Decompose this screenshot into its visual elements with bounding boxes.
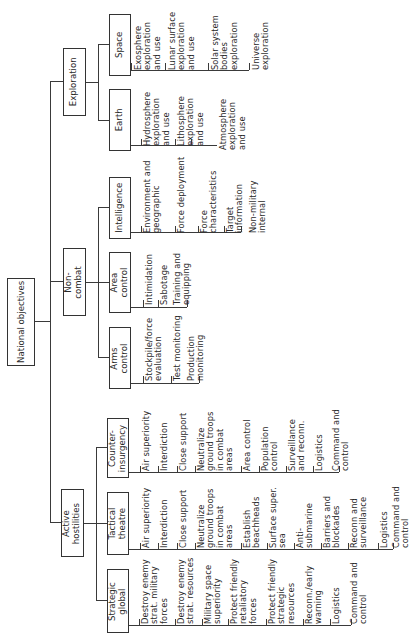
label-intelligence: Intelligence — [115, 177, 125, 239]
leaf-tt-4: Establish beachheads — [243, 497, 262, 548]
leaf-area-control-1: Sabotage — [160, 265, 169, 305]
leaf-ci-5: Population control — [261, 426, 280, 471]
tick — [208, 63, 209, 70]
leaf-tt-8: Reconn and surveillance — [350, 497, 369, 548]
label-non-combat: Non- combat — [64, 249, 83, 317]
leaf-ci-7: Logistics — [315, 434, 324, 471]
box-space: Space — [109, 14, 131, 76]
leaf-ci-0: Air superiority — [142, 411, 151, 471]
connector — [50, 81, 51, 522]
connector — [98, 282, 109, 283]
box-counter-insurgency: Counter- insurgency — [107, 418, 129, 478]
leaf-spine-space — [131, 70, 249, 71]
label-space: Space — [115, 14, 125, 76]
connector — [84, 523, 96, 524]
leaf-arms-control-1: Test monitoring — [173, 315, 182, 381]
leaf-sg-7: Command and control — [350, 562, 369, 624]
national-objectives-tree-diagram: National objectives Exploration Non- com… — [0, 0, 411, 642]
leaf-ci-6: Surveillance and reconn. — [288, 419, 307, 471]
tick — [241, 226, 242, 232]
leaf-ci-3: Neutralize ground troops in combat areas — [197, 411, 235, 471]
leaf-intelligence-1: Force deployment — [177, 157, 186, 233]
connector — [98, 44, 99, 120]
label-exploration: Exploration — [69, 48, 79, 116]
leaf-spine-tactical-theatre — [129, 549, 393, 550]
connector — [98, 357, 109, 358]
leaf-area-control-2: Training and equipping — [173, 253, 192, 305]
label-active-hostilities: Active hostilities — [62, 490, 81, 558]
leaf-area-control-0: Intimidation — [145, 254, 154, 305]
leaf-arms-control-2: Production monitoring — [187, 335, 206, 381]
leaf-spine-counter-insurgency — [129, 472, 339, 473]
connector — [50, 81, 63, 82]
leaf-ci-1: Interdiction — [160, 422, 169, 471]
leaf-tt-2: Close support — [179, 490, 188, 548]
leaf-ci-2: Close support — [179, 413, 188, 471]
box-tactical-theatre: Tactical theatre — [107, 492, 129, 555]
box-exploration: Exploration — [63, 48, 86, 116]
leaf-tt-1: Interdiction — [160, 499, 169, 548]
leaf-space-2: Solar system bodies exploration — [211, 15, 239, 70]
connector — [96, 600, 107, 601]
box-earth: Earth — [109, 89, 131, 151]
box-active-hostilities: Active hostilities — [61, 489, 84, 557]
box-area-control: Area control — [109, 252, 131, 313]
leaf-earth-0: Hydrosphere exploration and use — [143, 92, 171, 146]
leaf-intelligence-0: Environment and geographic — [143, 160, 162, 233]
leaf-tt-9: Logistics — [380, 511, 389, 548]
leaf-sg-5: Reconn./early warning — [305, 566, 324, 624]
leaf-ci-8: Command and control — [332, 409, 351, 471]
leaf-arms-control-0: Stockpile/force evaluation — [145, 318, 164, 381]
label-area-control: Area control — [110, 252, 129, 314]
leaf-spine-arms-control — [131, 383, 199, 384]
leaf-intelligence-4: Non-military internal — [249, 181, 268, 233]
leaf-sg-0: Destroy enemy strat. military forces — [141, 559, 169, 624]
connector — [96, 523, 107, 524]
leaf-space-0: Exosphere exploration and use — [134, 22, 162, 70]
leaf-sg-4: Protect friendly strategic resources — [268, 559, 296, 624]
connector — [50, 281, 63, 282]
box-arms-control: Arms control — [109, 327, 131, 389]
leaf-tt-5: Surface super. sea — [269, 487, 288, 548]
label-strategic-global: Strategic global — [108, 571, 127, 633]
tick — [165, 63, 166, 70]
leaf-ci-4: Area control — [243, 419, 252, 471]
leaf-sg-1: Destroy enemy strat. resources — [177, 558, 196, 624]
connector — [96, 447, 107, 448]
connector — [50, 522, 61, 523]
leaf-spine-strategic-global — [129, 625, 351, 626]
leaf-tt-10: Command and control — [392, 486, 411, 548]
leaf-space-1: Lunar surface exploration and use — [168, 12, 196, 70]
label-arms-control: Arms control — [110, 328, 129, 390]
root-label: National objectives — [17, 278, 27, 366]
connector — [35, 321, 50, 322]
connector — [191, 145, 217, 146]
box-intelligence: Intelligence — [109, 177, 131, 239]
leaf-spine-area-control — [131, 307, 187, 308]
connector — [98, 44, 109, 45]
leaf-sg-2: Military space superiority — [204, 565, 223, 624]
leaf-sg-6: Logistics — [332, 587, 341, 624]
connector — [86, 282, 98, 283]
leaf-space-3: Universe exploration — [252, 22, 271, 70]
label-tactical-theatre: Tactical theatre — [108, 493, 127, 555]
leaf-tt-7: Barriers and blockades — [323, 496, 342, 548]
root-box-national-objectives: National objectives — [7, 278, 35, 366]
leaf-earth-2: Atmosphere exploration and use — [219, 99, 247, 150]
connector — [86, 82, 98, 83]
leaf-tt-0: Air superiority — [142, 488, 151, 548]
connector — [98, 120, 109, 121]
label-counter-insurgency: Counter- insurgency — [108, 419, 127, 479]
leaf-sg-3: Protect friendly retaliatory forces — [230, 559, 258, 624]
leaf-intelligence-2: Force characteristics — [200, 171, 219, 233]
box-strategic-global: Strategic global — [107, 569, 129, 633]
box-non-combat: Non- combat — [63, 248, 86, 316]
connector — [98, 207, 109, 208]
leaf-tt-6: Anti- submarine — [296, 503, 315, 548]
tick — [249, 63, 250, 70]
label-earth: Earth — [115, 89, 125, 151]
tick — [131, 63, 132, 70]
leaf-tt-3: Neutralize ground troops in combat areas — [197, 488, 235, 548]
